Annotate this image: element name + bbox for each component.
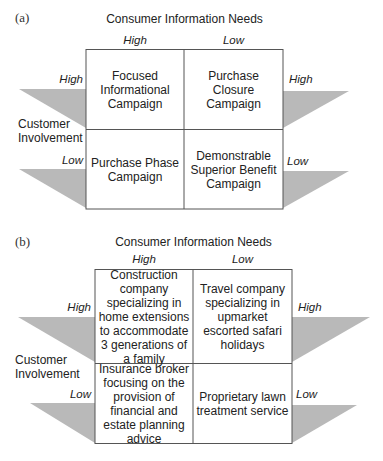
left-tick-high: High [59,73,83,85]
right-high-wedge-a [283,91,349,128]
cell-high-high: Focused Informational Campaign [86,50,184,129]
panel-label: (a) [15,10,29,26]
consumer-information-needs-title: Consumer Information Needs [86,12,283,26]
top-tick-low: Low [184,34,283,46]
panel-label: (b) [15,234,30,250]
cell-low-low: Proprietary lawn treatment service [193,364,292,443]
cell-high-low: Purchase Closure Campaign [184,50,283,129]
side-title-line2: Involvement [15,367,80,381]
side-title-line1: Customer [18,117,83,131]
right-tick-high: High [298,301,322,313]
left-low-wedge-b [30,403,95,443]
cell-low-high: Purchase Phase Campaign [86,130,184,209]
right-tick-high: High [289,73,313,85]
right-tick-low: Low [287,155,308,167]
top-tick-low: Low [193,253,292,265]
customer-involvement-title: Customer Involvement [15,353,80,381]
top-tick-high: High [95,253,193,265]
right-low-wedge-a [283,171,349,208]
top-tick-high: High [86,34,184,46]
customer-involvement-title: Customer Involvement [18,117,83,145]
right-low-wedge-b [292,405,357,443]
left-low-wedge-a [19,169,86,208]
side-title-line1: Customer [15,353,80,367]
cell-high-high: Construction company specializing in hom… [95,270,193,363]
cell-high-low: Travel company specializing in upmarket … [193,270,292,363]
right-high-wedge-b [292,317,370,362]
cell-low-low: Demonstrable Superior Benefit Campaign [184,130,283,209]
left-tick-low: Low [62,154,83,166]
cell-low-high: Insurance broker focusing on the provisi… [95,364,193,443]
side-title-line2: Involvement [18,131,83,145]
left-tick-low: Low [70,388,91,400]
consumer-information-needs-title: Consumer Information Needs [95,235,292,249]
left-tick-high: High [67,301,91,313]
right-tick-low: Low [296,388,317,400]
